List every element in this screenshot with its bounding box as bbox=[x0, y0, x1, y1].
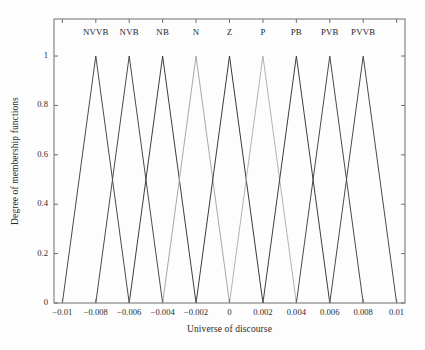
x-axis-title: Universe of discourse bbox=[54, 324, 405, 334]
series-label-pvvb: PVVB bbox=[323, 27, 403, 37]
y-tick-label-0: 0 bbox=[6, 297, 48, 307]
membership-function-chart bbox=[0, 0, 425, 350]
y-tick-label-5: 1 bbox=[6, 50, 48, 60]
y-tick-label-1: 0.2 bbox=[6, 248, 48, 258]
x-tick-label-10: 0.01 bbox=[367, 307, 425, 317]
y-axis-title: Degree of membership functions bbox=[10, 97, 20, 225]
chart-canvas: NVVBNVBNBNZPPBPVBPVVB−0.01−0.008−0.006−0… bbox=[0, 0, 425, 350]
